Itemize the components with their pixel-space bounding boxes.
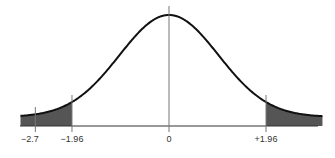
- tick-label-neg-1-96: −1.96: [61, 134, 84, 144]
- tick-label-neg-2-7: −2.7: [21, 134, 39, 144]
- tick-label-pos-1-96: +1.96: [255, 134, 278, 144]
- normal-curve: [21, 15, 323, 116]
- tick-label-zero: 0: [166, 134, 171, 144]
- normal-distribution-chart: −2.7 −1.96 0 +1.96: [0, 0, 335, 158]
